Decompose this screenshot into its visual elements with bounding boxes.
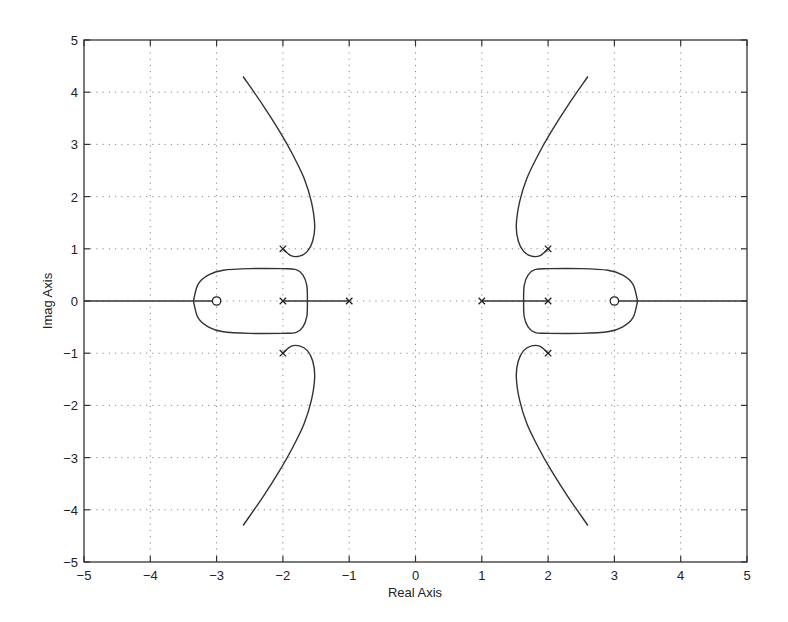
- y-tick-label: −5: [63, 555, 78, 570]
- x-axis-label: Real Axis: [388, 585, 443, 600]
- y-tick-label: 3: [71, 137, 78, 152]
- x-tick-label: −5: [77, 568, 92, 583]
- zero-circle-icon: [212, 297, 220, 305]
- y-axis-label: Imag Axis: [40, 272, 55, 329]
- root-locus-chart: −5−4−3−2−1012345 −5−4−3−2−1012345 Real A…: [0, 0, 788, 622]
- y-tick-label: 5: [71, 33, 78, 48]
- x-tick-label: 4: [677, 568, 684, 583]
- y-tick-label: 4: [71, 85, 78, 100]
- y-tick-label: −2: [63, 398, 78, 413]
- x-tick-label: 1: [478, 568, 485, 583]
- y-tick-labels: −5−4−3−2−1012345: [63, 33, 78, 570]
- y-tick-label: −4: [63, 503, 78, 518]
- x-tick-label: −4: [143, 568, 158, 583]
- x-tick-labels: −5−4−3−2−1012345: [77, 568, 751, 583]
- x-tick-label: −3: [209, 568, 224, 583]
- zero-circle-icon: [610, 297, 618, 305]
- x-tick-label: −2: [275, 568, 290, 583]
- y-tick-label: 1: [71, 242, 78, 257]
- y-tick-label: −3: [63, 451, 78, 466]
- x-tick-label: 5: [743, 568, 750, 583]
- y-tick-label: −1: [63, 346, 78, 361]
- x-tick-label: 0: [412, 568, 419, 583]
- y-tick-label: 0: [71, 294, 78, 309]
- y-tick-label: 2: [71, 190, 78, 205]
- x-tick-label: 3: [611, 568, 618, 583]
- x-tick-label: −1: [342, 568, 357, 583]
- x-tick-label: 2: [544, 568, 551, 583]
